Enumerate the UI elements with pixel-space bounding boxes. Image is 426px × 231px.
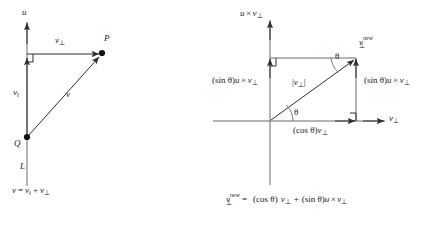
- v-parallel-label: v‖: [13, 88, 19, 98]
- v-perp-label: v⊥: [55, 36, 65, 46]
- caption-v-par-sub: ‖: [29, 189, 31, 196]
- hyp-close-bar: |: [304, 77, 306, 87]
- resultant-label-sub: ⊥: [359, 43, 365, 50]
- right-angle-marker-left: [27, 54, 33, 62]
- point-Q-dot: [24, 134, 30, 140]
- left-diagram-panel: u L P Q v⊥ v‖ v v=v‖+v⊥: [0, 0, 213, 231]
- eq-equals: =: [242, 194, 247, 204]
- left-v-sub: ⊥: [252, 79, 258, 86]
- v-vector: [29, 57, 99, 135]
- eq-lhs-sub: ⊥: [226, 200, 232, 207]
- horizontal-axis-label: v⊥: [389, 114, 399, 124]
- v-label: v: [66, 90, 70, 99]
- eq-plus: +: [294, 194, 299, 204]
- point-Q-label: Q: [14, 139, 21, 148]
- eq-sin: (sin θ): [302, 194, 325, 204]
- bottom-v-sub: ⊥: [322, 129, 328, 136]
- eq-v2-sub: ⊥: [341, 198, 347, 205]
- resultant-vector-label: vnew⊥: [359, 38, 363, 47]
- right-angle-marker-top-left: [270, 58, 276, 66]
- vertical-axis-label-u: u: [240, 8, 245, 18]
- vertical-axis-label-times: ×: [246, 8, 251, 18]
- horizontal-axis-label-sub: ⊥: [393, 117, 399, 124]
- left-caption: v=v‖+v⊥: [12, 186, 50, 196]
- bottom-side-component-label: (cos θ)v⊥: [293, 126, 328, 136]
- figure-root: u L P Q v⊥ v‖ v v=v‖+v⊥: [0, 0, 426, 231]
- bottom-cos: (cos θ): [293, 125, 318, 135]
- vertical-axis-label-v-sub: ⊥: [257, 12, 263, 19]
- right-diagram-panel: u×v⊥ v⊥ vnew⊥ |v⊥| (sin θ)u×v⊥ (sin θ)u×…: [213, 0, 426, 231]
- right-v-sub: ⊥: [404, 79, 410, 86]
- left-u: u: [235, 75, 240, 85]
- left-sin: (sin θ): [212, 75, 235, 85]
- axis-label-u: u: [22, 8, 27, 17]
- left-times: ×: [241, 75, 246, 85]
- eq-lhs-sup: new: [230, 192, 240, 198]
- hypotenuse-magnitude-label: |v⊥|: [292, 78, 306, 88]
- eq-cos: (cos θ): [253, 194, 278, 204]
- v-perp-label-sub: ⊥: [59, 39, 65, 46]
- caption-v: v: [12, 185, 16, 195]
- right-u: u: [387, 75, 392, 85]
- resultant-vector: [271, 60, 354, 120]
- right-angle-marker-bottom-right: [350, 113, 356, 121]
- right-sin: (sin θ): [364, 75, 387, 85]
- right-times: ×: [393, 75, 398, 85]
- vertical-axis-label: u×v⊥: [240, 9, 263, 19]
- point-P-label: P: [104, 34, 110, 43]
- right-side-component-label: (sin θ)u×v⊥: [364, 76, 410, 86]
- line-label-L: L: [20, 162, 25, 171]
- v-parallel-label-sub: ‖: [17, 91, 19, 98]
- right-equation: vnew⊥=(cos θ)v⊥+(sin θ)u×v⊥: [226, 195, 347, 205]
- resultant-label-sup: new: [363, 35, 373, 41]
- caption-plus: +: [33, 185, 38, 195]
- eq-v1-sub: ⊥: [285, 198, 291, 205]
- angle-label-top: θ: [335, 52, 339, 61]
- eq-times: ×: [331, 194, 336, 204]
- point-P-dot: [99, 50, 105, 56]
- eq-u: u: [325, 194, 330, 204]
- left-side-component-label: (sin θ)u×v⊥: [212, 76, 258, 86]
- caption-v-perp-sub: ⊥: [44, 189, 50, 196]
- angle-label-origin: θ: [294, 108, 298, 117]
- caption-eq: =: [18, 185, 23, 195]
